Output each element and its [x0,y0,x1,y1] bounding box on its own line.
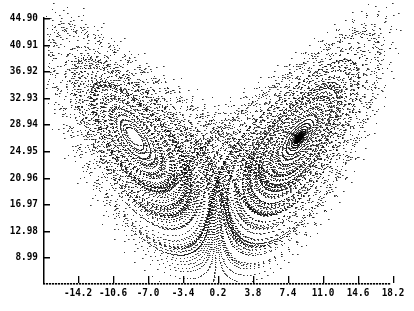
x-tick-label: 14.6 [347,287,370,299]
x-tick-label: 0.2 [210,287,227,299]
x-tick-label: -14.2 [64,287,92,299]
x-tick-label: 18.2 [382,287,405,299]
y-tick-label: 20.96 [6,172,38,184]
y-tick-label: 28.94 [6,118,38,130]
x-tick-label: 7.4 [280,287,297,299]
x-tick-label: -7.0 [137,287,160,299]
y-tick-label: 32.93 [6,92,38,104]
lorenz-attractor-plot [0,0,414,311]
x-tick-label: 3.8 [245,287,262,299]
y-tick-label: 8.99 [6,251,38,263]
x-tick-label: -10.6 [99,287,127,299]
y-tick-label: 36.92 [6,65,38,77]
y-tick-label: 44.90 [6,12,38,24]
y-tick-label: 40.91 [6,39,38,51]
y-tick-label: 24.95 [6,145,38,157]
x-tick-label: -3.4 [172,287,195,299]
x-tick-label: 11.0 [312,287,335,299]
y-tick-label: 12.98 [6,225,38,237]
y-tick-label: 16.97 [6,198,38,210]
